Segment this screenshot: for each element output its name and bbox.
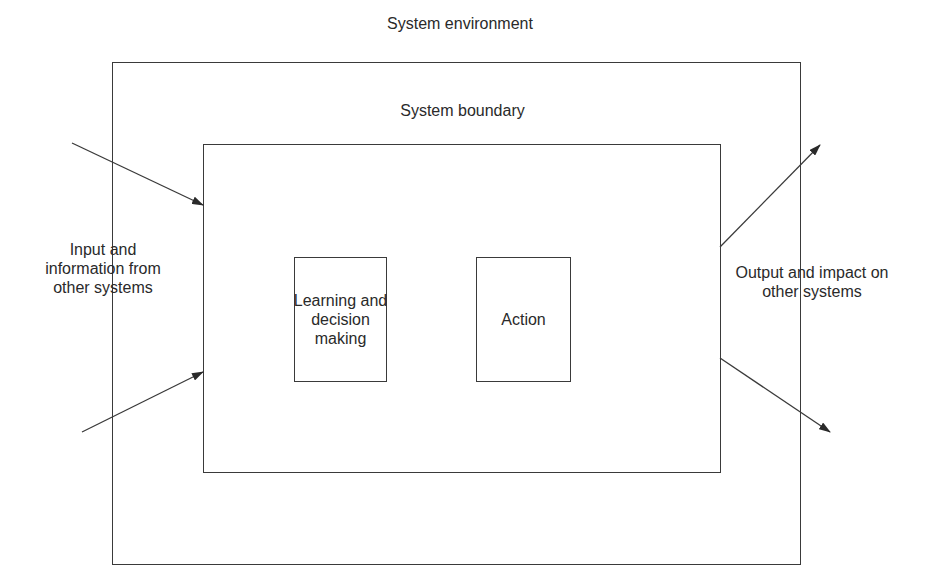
system-boundary-box	[203, 144, 721, 473]
input-label: Input and information from other systems	[28, 240, 178, 297]
output-label: Output and impact on other systems	[722, 263, 902, 301]
system-diagram: System environment System boundary Learn…	[0, 0, 938, 582]
environment-title: System environment	[340, 14, 580, 33]
boundary-label: System boundary	[360, 101, 565, 120]
action-label: Action	[476, 310, 571, 329]
learning-decision-label: Learning and decision making	[290, 291, 391, 348]
